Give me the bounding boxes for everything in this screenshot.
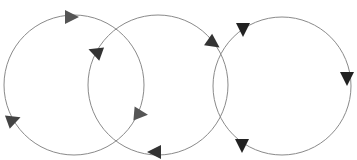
arrow-right-upper-left-icon bbox=[236, 23, 250, 37]
arrow-middle-bottom-icon bbox=[147, 145, 161, 159]
arrow-right-lower-left-icon bbox=[235, 139, 249, 153]
circles-group bbox=[4, 15, 351, 155]
circle-right bbox=[213, 17, 351, 155]
cycle-diagram bbox=[0, 0, 357, 160]
circle-left bbox=[4, 15, 144, 155]
arrow-left-lower-left-icon bbox=[5, 111, 23, 129]
arrow-left-lower-right-icon bbox=[133, 107, 148, 122]
arrowheads-group bbox=[5, 10, 354, 159]
arrow-middle-upper-right-icon bbox=[204, 34, 223, 53]
arrow-right-right-icon bbox=[340, 72, 354, 86]
arrow-left-top-icon bbox=[65, 10, 79, 24]
circle-middle bbox=[88, 15, 228, 155]
arrow-middle-upper-left-icon bbox=[86, 43, 104, 61]
